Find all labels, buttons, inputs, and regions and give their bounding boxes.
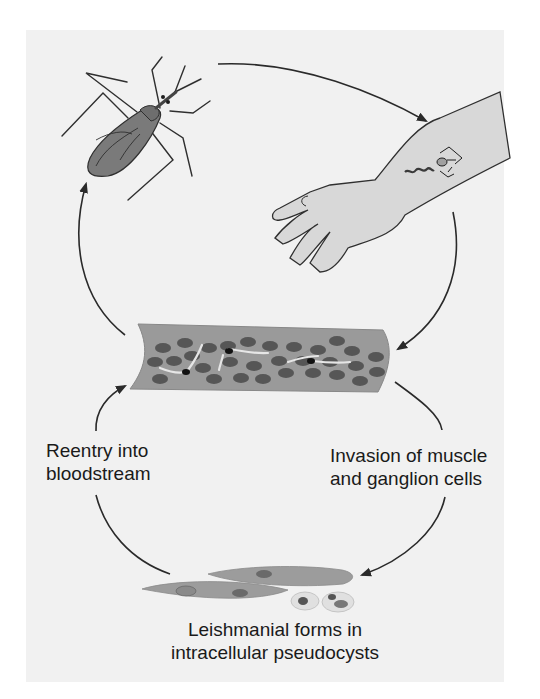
- invasion-line-2: and ganglion cells: [330, 467, 487, 490]
- leishmanial-line-2: intracellular pseudocysts: [130, 641, 420, 664]
- blood-vessel-icon: [130, 324, 389, 392]
- leishmanial-forms-label: Leishmanial forms in intracellular pseud…: [130, 618, 420, 664]
- human-arm-icon: [273, 92, 511, 272]
- arrow-arm-to-blood: [398, 212, 456, 349]
- arrow-invasion-to-cells: [362, 497, 445, 575]
- muscle-cells-with-pseudocysts-icon: [142, 567, 354, 612]
- arrow-bug-to-arm: [218, 64, 426, 121]
- triatomine-bug-icon: [62, 57, 210, 200]
- invasion-of-muscle-label: Invasion of muscle and ganglion cells: [330, 444, 487, 490]
- reentry-into-bloodstream-label: Reentry into bloodstream: [46, 439, 151, 485]
- life-cycle-diagram: [0, 0, 540, 699]
- arrow-blood-to-muscle: [395, 382, 442, 430]
- reentry-line-2: bloodstream: [46, 462, 151, 485]
- arrow-blood-to-bug: [79, 184, 125, 335]
- arrow-reentry-to-blood: [96, 386, 125, 431]
- leishmanial-line-1: Leishmanial forms in: [130, 618, 420, 641]
- arrow-cells-to-reentry: [96, 495, 170, 574]
- reentry-line-1: Reentry into: [46, 439, 151, 462]
- invasion-line-1: Invasion of muscle: [330, 444, 487, 467]
